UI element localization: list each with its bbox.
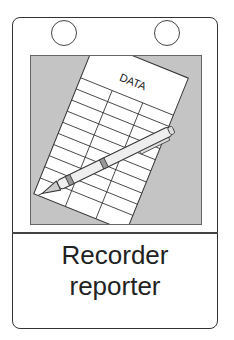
- illustration-panel: DATA: [30, 55, 202, 225]
- card-divider: [12, 232, 218, 234]
- role-title: Recorder reporter: [12, 240, 218, 302]
- role-title-line1: Recorder: [12, 240, 218, 271]
- binder-hole-right-icon: [154, 20, 180, 46]
- role-title-line2: reporter: [12, 271, 218, 302]
- data-sheet-icon: DATA: [31, 56, 202, 225]
- binder-hole-left-icon: [51, 20, 77, 46]
